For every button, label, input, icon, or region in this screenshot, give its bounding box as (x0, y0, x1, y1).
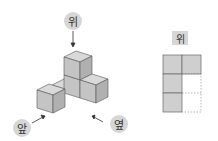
cube-diagram (0, 0, 218, 141)
cube-right (80, 74, 108, 103)
answer-view-title: 위 (172, 31, 188, 45)
arrow-front (32, 115, 45, 123)
label-front: 앞 (13, 119, 31, 137)
top-view-grid (163, 55, 201, 112)
grid-cell-r1c2 (182, 55, 201, 74)
arrow-side (92, 115, 103, 122)
grid-cell-r2c1 (163, 74, 182, 93)
cube-front-left (37, 84, 65, 113)
arrow-top (71, 31, 75, 47)
label-top: 위 (64, 12, 82, 30)
label-side: 옆 (110, 115, 128, 133)
grid-cell-r1c1 (163, 55, 182, 74)
grid-cell-r3c1 (163, 93, 182, 112)
cube-top (64, 51, 92, 80)
